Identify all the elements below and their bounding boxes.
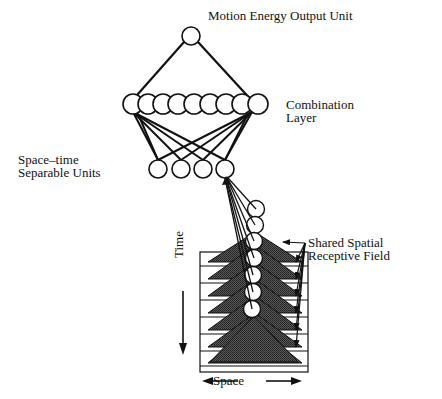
motion-energy-diagram: Motion Energy Output Unit Combination La… bbox=[0, 0, 442, 399]
output-unit-node bbox=[182, 27, 200, 45]
separable-units-label: Space–time Separable Units bbox=[18, 153, 101, 179]
time-axis-label: Time bbox=[172, 231, 185, 258]
space-axis-label: Space bbox=[213, 374, 244, 387]
separable-units bbox=[149, 160, 234, 178]
receptive-field-label-line2: Receptive Field bbox=[308, 249, 390, 262]
output-unit-label: Motion Energy Output Unit bbox=[208, 9, 353, 22]
combination-layer bbox=[123, 94, 268, 114]
time-axis-arrow bbox=[179, 291, 187, 355]
separable-units-label-line2: Separable Units bbox=[18, 166, 101, 179]
combination-layer-label: Combination Layer bbox=[286, 98, 354, 124]
combination-to-separable-connections bbox=[133, 112, 252, 160]
combination-layer-label-line2: Layer bbox=[286, 111, 354, 124]
receptive-field-label: Shared Spatial Receptive Field bbox=[308, 236, 390, 262]
diagram-graphics bbox=[0, 0, 442, 399]
